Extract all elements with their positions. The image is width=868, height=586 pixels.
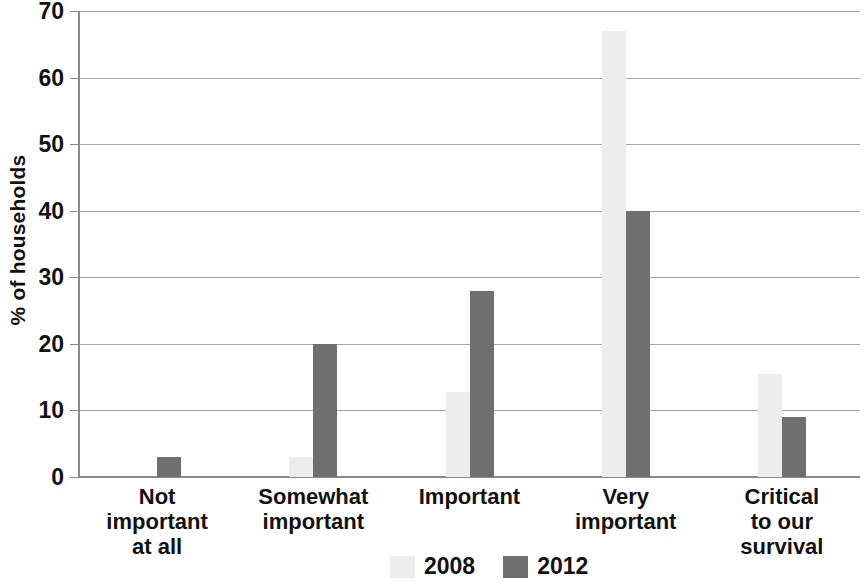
- legend-label: 2008: [424, 553, 475, 580]
- y-axis-tick: [70, 11, 80, 12]
- bar-2012-0: [157, 457, 181, 477]
- x-axis-label-0: Notimportantat all: [79, 484, 235, 559]
- x-axis-label-2: Important: [391, 484, 547, 509]
- y-axis-tick-label: 30: [38, 264, 64, 291]
- legend-swatch-2008: [390, 556, 415, 578]
- chart-legend: 20082012: [390, 553, 588, 580]
- gridline: [79, 144, 860, 145]
- bar-2012-4: [782, 417, 806, 477]
- gridline: [79, 11, 860, 12]
- y-axis-tick: [70, 211, 80, 212]
- gridline: [79, 277, 860, 278]
- y-axis-tick: [70, 477, 80, 478]
- y-axis-tick-label: 50: [38, 131, 64, 158]
- y-axis-tick: [70, 277, 80, 278]
- bar-2008-3: [602, 31, 626, 477]
- x-axis-label-line: at all: [79, 534, 235, 559]
- y-axis-tick: [70, 78, 80, 79]
- x-axis-label-line: Not: [79, 484, 235, 509]
- legend-label: 2012: [537, 553, 588, 580]
- y-axis-tick-label: 10: [38, 397, 64, 424]
- x-axis-label-line: survival: [704, 534, 860, 559]
- y-axis-tick-label: 40: [38, 197, 64, 224]
- legend-item-2012[interactable]: 2012: [503, 553, 588, 580]
- bar-2012-3: [626, 211, 650, 477]
- bar-2008-1: [289, 457, 313, 477]
- legend-swatch-2012: [503, 556, 528, 578]
- y-axis-tick-label: 70: [38, 0, 64, 25]
- y-axis-tick: [70, 410, 80, 411]
- bar-2012-2: [470, 291, 494, 477]
- x-axis-label-3: Veryimportant: [548, 484, 704, 534]
- y-axis-title: % of households: [0, 0, 34, 480]
- x-axis-label-line: Important: [391, 484, 547, 509]
- legend-item-2008[interactable]: 2008: [390, 553, 475, 580]
- bar-2008-4: [758, 374, 782, 477]
- x-axis-label-line: Somewhat: [235, 484, 391, 509]
- x-axis-label-line: Very: [548, 484, 704, 509]
- y-axis-tick-label: 0: [51, 464, 64, 491]
- bar-chart: % of households 706050403020100 Notimpor…: [0, 0, 868, 586]
- x-axis-label-line: important: [79, 509, 235, 534]
- y-axis-title-text: % of households: [5, 155, 29, 326]
- bar-2008-2: [446, 392, 470, 477]
- x-axis-label-line: important: [235, 509, 391, 534]
- y-axis-tick: [70, 144, 80, 145]
- y-axis-tick: [70, 344, 80, 345]
- x-axis-label-line: to our: [704, 509, 860, 534]
- gridline: [79, 78, 860, 79]
- y-axis-tick-label: 60: [38, 64, 64, 91]
- x-axis-label-4: Criticalto oursurvival: [704, 484, 860, 559]
- x-axis-label-line: important: [548, 509, 704, 534]
- y-axis-line: [78, 11, 80, 477]
- y-axis-tick-label: 20: [38, 330, 64, 357]
- plot-area: 706050403020100: [79, 11, 860, 477]
- bar-2012-1: [313, 344, 337, 477]
- x-axis-label-1: Somewhatimportant: [235, 484, 391, 534]
- x-axis-label-line: Critical: [704, 484, 860, 509]
- gridline: [79, 211, 860, 212]
